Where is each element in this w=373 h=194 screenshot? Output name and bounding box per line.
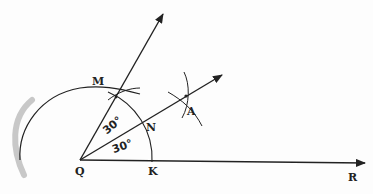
label-m: M [92, 76, 104, 87]
construction-figure [0, 0, 373, 194]
ray-qr [80, 160, 365, 163]
label-n: N [146, 122, 156, 133]
point-a-dot [184, 94, 187, 97]
label-r: R [348, 172, 357, 183]
label-q: Q [75, 166, 85, 177]
label-k: K [148, 166, 158, 177]
shadow-arc [15, 100, 32, 175]
label-a: A [187, 106, 196, 117]
geometry-diagram: M N A Q K R 30° 30° [0, 0, 373, 194]
point-m-dot [115, 96, 118, 99]
